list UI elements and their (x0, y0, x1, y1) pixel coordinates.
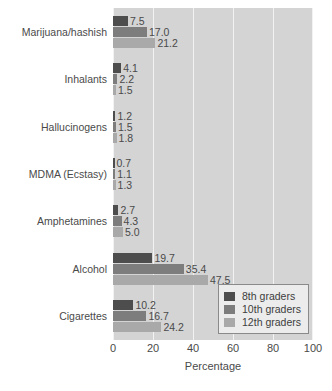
x-axis-ticks: 020406080100 (113, 340, 313, 356)
category-axis-labels: Marijuana/hashishInhalantsHallucinogensM… (0, 8, 332, 340)
x-tick-label: 0 (110, 343, 116, 354)
category-label: Cigarettes (59, 311, 107, 322)
category-label: Amphetamines (37, 216, 107, 227)
bar-chart: 7.517.021.24.12.21.51.21.51.80.71.11.32.… (0, 0, 332, 391)
category-label: Alcohol (73, 264, 107, 275)
x-tick-label: 100 (304, 343, 322, 354)
x-tick-label: 80 (267, 343, 279, 354)
x-axis-title: Percentage (113, 361, 313, 372)
category-label: Inhalants (64, 74, 107, 85)
x-tick-label: 40 (187, 343, 199, 354)
category-label: Marijuana/hashish (22, 27, 107, 38)
category-label: MDMA (Ecstasy) (29, 169, 107, 180)
x-tick-label: 60 (227, 343, 239, 354)
x-tick-label: 20 (147, 343, 159, 354)
category-label: Hallucinogens (41, 122, 107, 133)
